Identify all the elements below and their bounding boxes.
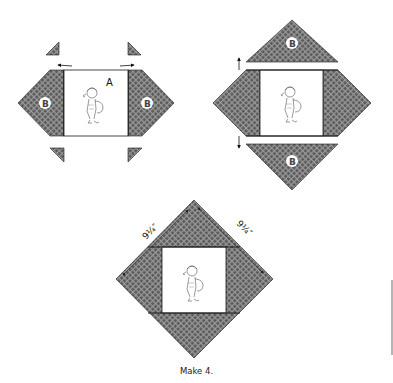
dimension-label-right: 9¼″ [235, 218, 255, 238]
page-edge-line [391, 280, 393, 355]
corner-triangle-bottom-left [50, 148, 64, 162]
center-square-a [64, 70, 128, 136]
label-b-bottom: B [289, 157, 296, 167]
pressing-arrow-left [58, 65, 72, 66]
figure-caption: Make 4. [0, 366, 393, 376]
corner-triangle-bottom-right [128, 148, 142, 162]
middle-row-center-square [260, 70, 323, 136]
step2-assembly: B B [213, 20, 371, 190]
pressing-arrow-right [120, 65, 134, 66]
quilt-block-diagram: A B B B B [0, 0, 393, 383]
corner-triangle-top-right [128, 42, 141, 55]
label-b-right: B [144, 99, 151, 109]
finished-block: 9¼″ 9¼″ [116, 200, 273, 358]
finished-block-center-square [162, 247, 226, 313]
label-b-left: B [42, 99, 49, 109]
corner-triangle-top-left [46, 42, 59, 55]
step1-assembly: A B B [18, 42, 174, 162]
middle-row-right-piece [323, 70, 371, 136]
middle-row-left-piece [213, 70, 260, 136]
label-b-top: B [289, 39, 296, 49]
label-a: A [106, 77, 113, 88]
